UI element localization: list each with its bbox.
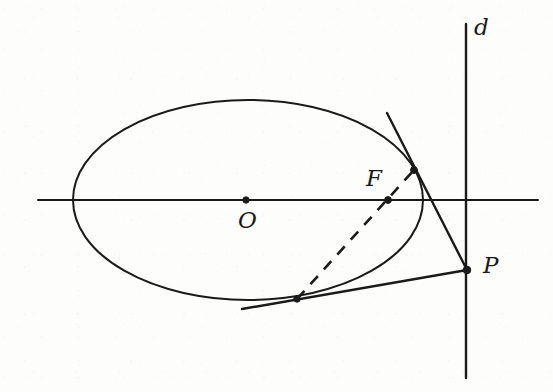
label-directrix-d: d bbox=[474, 16, 489, 39]
label-center-O: O bbox=[238, 209, 257, 232]
geometry-figure: d O F P bbox=[0, 0, 553, 392]
label-focus-F: F bbox=[366, 167, 382, 190]
figure-canvas bbox=[0, 0, 553, 392]
tangency-point-upper bbox=[411, 167, 418, 174]
point-F bbox=[385, 197, 392, 204]
tangent-line-upper bbox=[387, 113, 467, 270]
tangent-line-lower bbox=[242, 270, 467, 309]
tangency-point-lower bbox=[294, 296, 300, 302]
label-external-point-P: P bbox=[483, 254, 498, 277]
point-P bbox=[463, 266, 471, 274]
point-O bbox=[243, 197, 249, 203]
